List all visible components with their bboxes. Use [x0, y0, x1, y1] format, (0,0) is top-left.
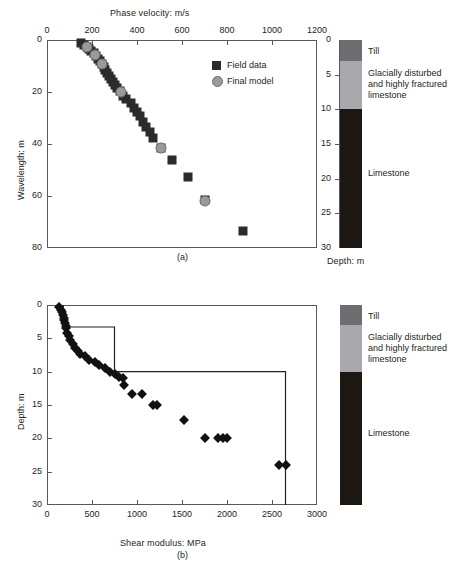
y-tick-label: 80 [23, 242, 42, 252]
field-data-point [148, 133, 157, 142]
figure-container: Phase velocity: m/s Wavelength: m 020040… [0, 0, 465, 581]
geology-annotation-Till: Till [368, 46, 465, 57]
geology-tick-label: 10 [311, 103, 331, 113]
geology-column-a [340, 40, 362, 248]
legend-item-final-model: Final model [212, 74, 274, 88]
geology-layer-limestone [340, 372, 362, 505]
geology-tick-mark [335, 179, 339, 180]
geology-tick-mark [335, 213, 339, 214]
y-tick-mark [47, 92, 52, 93]
legend-item-field-data: Field data [212, 58, 274, 72]
geology-layer-limestone [340, 109, 362, 248]
geology-tick-label: 0 [311, 34, 331, 44]
final-model-point [155, 143, 166, 154]
final-model-circle-icon [212, 76, 223, 87]
panel-b-x-axis-title: Shear modulus: MPa [120, 538, 206, 548]
x-tick-label: 800 [215, 25, 239, 35]
geology-column-b [340, 305, 362, 505]
field-data-point [238, 226, 247, 235]
field-data-square-icon [212, 61, 221, 70]
panel-a-legend: Field data Final model [212, 58, 274, 90]
geology-tick-mark [335, 75, 339, 76]
panel-b-shear-modulus: 050010001500200025003000 051015202530 De… [0, 285, 465, 581]
geology-a-axis-line [339, 40, 340, 248]
x-tick-label: 600 [170, 25, 194, 35]
geology-layer-Till [340, 305, 362, 325]
panel-a-x-axis-title: Phase velocity: m/s [110, 8, 189, 18]
final-model-point [97, 59, 108, 70]
panel-a-label: (a) [0, 252, 365, 262]
geology-tick-label: 15 [311, 138, 331, 148]
panel-a-dispersion: Phase velocity: m/s Wavelength: m 020040… [0, 0, 465, 285]
x-tick-mark [227, 40, 228, 45]
y-tick-label: 40 [23, 138, 42, 148]
field-data-point [184, 172, 193, 181]
layered-model-step-path [63, 305, 285, 505]
final-model-point [90, 49, 101, 60]
geology-annotation-limestone: Limestone [368, 428, 465, 439]
y-tick-mark [47, 196, 52, 197]
x-tick-label: 400 [125, 25, 149, 35]
geology-tick-mark [335, 144, 339, 145]
x-tick-mark [182, 40, 183, 45]
x-tick-mark [272, 40, 273, 45]
geology-layer-weathered-limestone [340, 325, 362, 372]
geology-tick-label: 5 [311, 69, 331, 79]
geology-tick-label: 30 [311, 242, 331, 252]
geology-annotation-weathered-limestone: Glacially disturbed and highly fractured… [368, 68, 465, 101]
y-tick-label: 0 [23, 34, 42, 44]
x-tick-mark [137, 40, 138, 45]
geology-layer-Till [340, 40, 362, 61]
x-tick-label: 200 [80, 25, 104, 35]
legend-label-field-data: Field data [227, 60, 267, 70]
y-tick-mark [47, 144, 52, 145]
y-tick-label: 60 [23, 190, 42, 200]
geology-annotation-weathered-limestone: Glacially disturbed and highly fractured… [368, 332, 465, 365]
geology-tick-mark [335, 109, 339, 110]
field-data-point [168, 156, 177, 165]
geology-tick-label: 25 [311, 207, 331, 217]
final-model-point [116, 86, 127, 97]
panel-a-plot-area [47, 40, 317, 248]
geology-annotation-Till: Till [368, 311, 465, 322]
panel-b-y-axis-title: Depth: m [16, 393, 26, 430]
geology-layer-weathered-limestone [340, 61, 362, 110]
legend-label-final-model: Final model [227, 76, 274, 86]
y-tick-label: 20 [23, 86, 42, 96]
panel-b-label: (b) [0, 550, 365, 560]
x-tick-label: 1000 [260, 25, 284, 35]
geology-annotation-limestone: Limestone [368, 168, 465, 179]
geology-tick-label: 20 [311, 173, 331, 183]
final-model-point [199, 196, 210, 207]
